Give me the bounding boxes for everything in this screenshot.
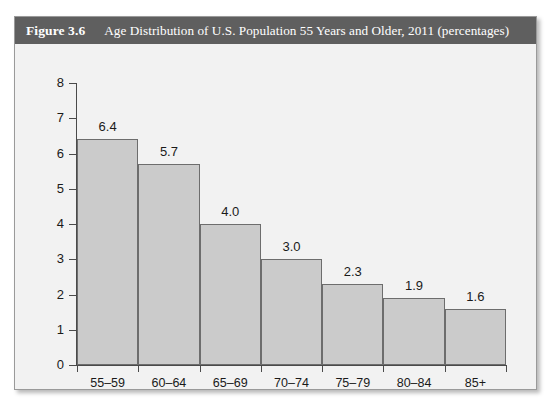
bar-55–59: 6.4 [77,139,138,365]
y-axis-tick: 4 [69,224,76,225]
y-axis-tick-label: 3 [57,250,64,268]
bar-value-label: 1.9 [405,278,423,293]
y-axis-tick: 6 [69,154,76,155]
bar-60–64: 5.7 [138,164,199,365]
x-axis-tick [445,365,446,372]
figure-container: Figure 3.6 Age Distribution of U.S. Popu… [14,16,537,390]
x-axis-tick [77,365,78,372]
y-axis-tick: 1 [69,330,76,331]
bars-container: 6.45.74.03.02.31.91.6 [77,83,506,365]
bar-value-label: 1.6 [466,289,484,304]
bar-value-label: 2.3 [344,264,362,279]
x-axis-tick [322,365,323,372]
y-axis-tick-label: 4 [57,215,64,233]
y-axis-tick: 7 [69,118,76,119]
figure-title-label: Age Distribution of U.S. Population 55 Y… [104,23,509,39]
y-axis-tick-label: 7 [57,109,64,127]
y-axis-tick-label: 1 [57,321,64,339]
x-axis-category-label: 80–84 [397,376,432,390]
x-axis-category-label: 70–74 [274,376,309,390]
x-axis-category-label: 60–64 [152,376,187,390]
y-axis-tick-label: 6 [57,145,64,163]
y-axis-tick: 8 [69,83,76,84]
x-axis-category-label: 85+ [465,376,486,390]
y-axis-tick-label: 0 [57,356,64,374]
bar-65–69: 4.0 [200,224,261,365]
y-axis-tick: 3 [69,259,76,260]
figure-number-label: Figure 3.6 [26,23,85,39]
x-axis-line [76,365,506,366]
bar-80–84: 1.9 [383,298,444,365]
y-axis-tick-label: 8 [57,74,64,92]
bar-75–79: 2.3 [322,284,383,365]
y-axis-tick: 2 [69,295,76,296]
bar-value-label: 6.4 [99,119,117,134]
y-axis-tick: 0 [69,365,76,366]
x-axis-tick [261,365,262,372]
x-axis-category-label: 65–69 [213,376,248,390]
x-axis-tick [200,365,201,372]
y-axis-tick: 5 [69,189,76,190]
x-axis-tick [383,365,384,372]
y-axis-tick-label: 5 [57,180,64,198]
figure-header: Figure 3.6 Age Distribution of U.S. Popu… [15,17,536,44]
x-axis-category-label: 55–59 [90,376,125,390]
x-axis-tick [138,365,139,372]
bar-85+: 1.6 [445,309,506,365]
bar-value-label: 5.7 [160,144,178,159]
bar-value-label: 4.0 [221,204,239,219]
x-axis-category-label: 75–79 [335,376,370,390]
bar-value-label: 3.0 [282,239,300,254]
bar-70–74: 3.0 [261,259,322,365]
y-axis-tick-label: 2 [57,286,64,304]
chart-plot-region: 012345678 6.45.74.03.02.31.91.6 55–5960–… [15,44,536,389]
x-axis-tick [506,365,507,372]
